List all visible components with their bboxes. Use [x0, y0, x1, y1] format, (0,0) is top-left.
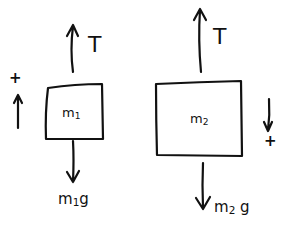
mass-1-positive-direction-arrow	[14, 95, 22, 128]
mass-1-weight-label: m1g	[58, 192, 89, 208]
mass-2-label: m2	[190, 112, 208, 127]
mass-1-label-subscript: 1	[75, 111, 81, 121]
mass-1-positive-sign: +	[9, 71, 22, 86]
mass-1-label-symbol: m	[62, 105, 75, 120]
mass-2-tension-label: T	[213, 26, 226, 48]
mass-2-weight-label: m2 g	[214, 200, 250, 216]
mass-1-tension-arrow	[67, 25, 78, 72]
mass-1-weight-symbol: m	[58, 190, 73, 208]
free-body-diagram: T m1 m1g + T m2 m2 g +	[0, 0, 288, 238]
mass-2-label-symbol: m	[190, 111, 203, 126]
mass-2-weight-subscript: 2	[229, 204, 236, 216]
mass-1-weight-g: g	[79, 190, 89, 208]
mass-1-tension-label: T	[88, 34, 101, 56]
mass-1-label: m1	[62, 106, 80, 121]
mass-2-weight-arrow	[196, 163, 210, 209]
mass-1-weight-arrow	[67, 141, 79, 182]
mass-2-tension-arrow	[194, 9, 206, 72]
mass-2-weight-g: g	[240, 198, 250, 216]
mass-2-positive-sign: +	[264, 134, 277, 149]
mass-2-weight-symbol: m	[214, 198, 229, 216]
mass-2-label-subscript: 2	[203, 117, 209, 127]
mass-2-positive-direction-arrow	[264, 99, 272, 131]
